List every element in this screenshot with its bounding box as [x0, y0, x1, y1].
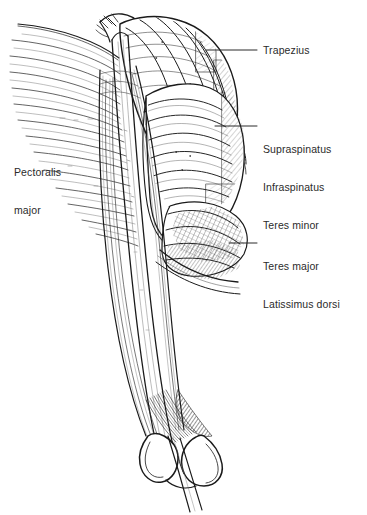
label-supraspinatus: Supraspinatus [263, 143, 331, 156]
label-latissimus-dorsi: Latissimus dorsi [263, 298, 340, 311]
label-pectoralis-line1: Pectoralis [14, 166, 61, 179]
elbow-epicondyles [139, 434, 222, 512]
label-infraspinatus: Infraspinatus [263, 181, 331, 194]
label-trapezius: Trapezius [263, 44, 310, 57]
label-teres-minor: Teres minor [263, 219, 331, 232]
label-pectoralis-major: Pectoralis major [14, 141, 61, 242]
anatomical-figure: Trapezius Supraspinatus Infraspinatus Te… [0, 0, 367, 515]
illustration-strokes [10, 14, 257, 512]
label-pectoralis-line2: major [14, 204, 61, 217]
teres-latissimus-region [156, 200, 252, 294]
label-teres-major: Teres major [263, 260, 340, 273]
label-teres-latissimus: Teres major Latissimus dorsi [263, 235, 340, 336]
label-trapezius-line1: Trapezius [263, 44, 310, 57]
pectoralis-texture [60, 118, 98, 186]
